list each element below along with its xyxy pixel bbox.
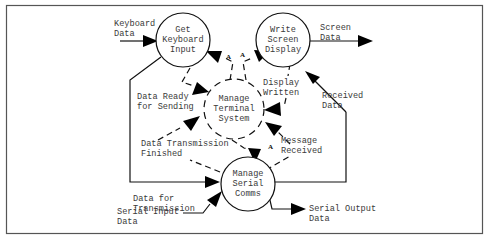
svg-text:Keyboard: Keyboard [162, 35, 203, 45]
activator-label: A [226, 53, 231, 61]
svg-text:Manage: Manage [233, 169, 264, 179]
data-flow-diagram: Get Keyboard Input Write Screen Display … [0, 0, 489, 240]
svg-text:Serial: Serial [233, 179, 264, 189]
process-write-screen-display: Write Screen Display [256, 13, 310, 67]
svg-text:Screen: Screen [268, 35, 299, 45]
svg-text:Comms: Comms [235, 189, 261, 199]
activator-label: A [268, 143, 273, 151]
label-display-written: Display Written [263, 78, 304, 98]
svg-text:System: System [219, 114, 250, 124]
svg-text:Get: Get [175, 25, 190, 35]
svg-text:Terminal: Terminal [213, 104, 254, 114]
svg-text:Write: Write [270, 25, 296, 35]
svg-text:Manage: Manage [219, 94, 250, 104]
svg-text:Display: Display [265, 45, 301, 55]
activator-label: A [240, 51, 245, 59]
process-manage-terminal-system: Manage Terminal System [204, 79, 264, 139]
svg-text:Input: Input [170, 45, 196, 55]
process-manage-serial-comms: Manage Serial Comms [221, 157, 275, 211]
label-message-received: Message Received [281, 136, 322, 156]
label-data-ready-for-sending: Data Ready for Sending [137, 92, 194, 112]
process-get-keyboard-input: Get Keyboard Input [156, 13, 210, 67]
